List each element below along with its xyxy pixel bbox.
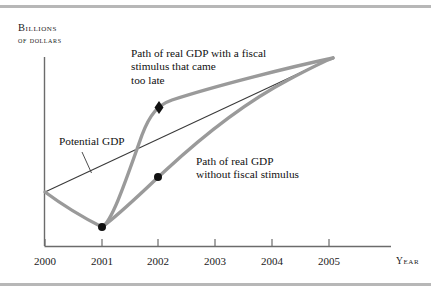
figure-container: Billions of dollars Year 2000 2001 2002 … (0, 0, 431, 295)
real-gdp-downturn-segment (45, 192, 102, 227)
annotation-without-stimulus-line1: Path of real GDP (196, 155, 299, 168)
y-axis-label-line1: Billions (18, 22, 57, 33)
marker-no-stimulus-2002 (154, 173, 162, 181)
x-axis-title: Year (396, 256, 419, 266)
annotation-potential-gdp-line1: Potential GDP (59, 135, 125, 148)
x-axis-ticks (45, 239, 329, 246)
x-tick-label-2005: 2005 (309, 255, 349, 267)
x-tick-label-2004: 2004 (252, 255, 292, 267)
annotation-with-stimulus-line1: Path of real GDP with a fiscal (131, 47, 266, 60)
potential-gdp-leader-line (82, 152, 92, 173)
x-tick-label-2000: 2000 (25, 255, 65, 267)
annotation-with-stimulus-line3: too late (131, 74, 266, 87)
annotation-with-stimulus: Path of real GDP with a fiscal stimulus … (131, 47, 266, 87)
x-tick-label-2003: 2003 (195, 255, 235, 267)
marker-trough-2001 (98, 223, 106, 231)
annotation-without-stimulus: Path of real GDP without fiscal stimulus (196, 155, 299, 182)
y-axis-label-line2: of dollars (18, 35, 62, 45)
x-tick-label-2002: 2002 (138, 255, 178, 267)
annotation-potential-gdp: Potential GDP (59, 135, 125, 148)
annotation-without-stimulus-line2: without fiscal stimulus (196, 168, 299, 181)
x-tick-label-2001: 2001 (82, 255, 122, 267)
annotation-with-stimulus-line2: stimulus that came (131, 60, 266, 73)
